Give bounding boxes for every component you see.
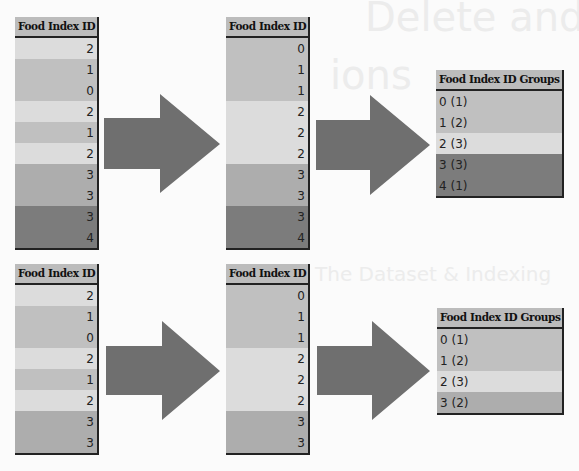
table-row: 4 [15, 227, 97, 248]
table-row: 2 [15, 38, 97, 59]
arrow-right-icon [104, 94, 222, 194]
table-row: 2 (3) [437, 371, 562, 392]
table-unsorted-bottom: Food Index ID 21021233 [15, 264, 99, 455]
table-groups-top: Food Index ID Groups 0 (1)1 (2)2 (3)3 (3… [436, 70, 564, 198]
table-row: 2 [15, 390, 97, 411]
arrow-right-icon [106, 321, 224, 421]
table-row: 3 [15, 185, 97, 206]
arrow-right-icon [316, 95, 434, 195]
table-row: 2 [226, 369, 308, 390]
background-heading: Delete and Update [365, 0, 579, 40]
table-header: Food Index ID Groups [436, 70, 562, 91]
table-row: 3 [15, 206, 97, 227]
table-row: 2 [226, 348, 308, 369]
table-row: 0 (1) [436, 91, 562, 112]
table-row: 3 (3) [436, 154, 562, 175]
table-groups-bottom: Food Index ID Groups 0 (1)1 (2)2 (3)3 (2… [437, 308, 564, 415]
table-header: Food Index ID [226, 17, 308, 38]
table-row: 0 [226, 38, 308, 59]
table-row: 1 [15, 369, 97, 390]
table-row: 2 [226, 122, 308, 143]
table-row: 1 [15, 122, 97, 143]
table-row: 1 [15, 306, 97, 327]
table-row: 3 [226, 206, 308, 227]
table-sorted-bottom: Food Index ID 01122233 [226, 264, 310, 455]
table-header: Food Index ID [15, 17, 97, 38]
table-row: 2 (3) [436, 133, 562, 154]
table-row: 2 [15, 101, 97, 122]
table-row: 3 [15, 164, 97, 185]
table-row: 2 [226, 143, 308, 164]
table-row: 0 [15, 327, 97, 348]
table-row: 0 (1) [437, 329, 562, 350]
table-row: 1 [226, 306, 308, 327]
table-row: 1 (2) [436, 112, 562, 133]
table-header: Food Index ID Groups [437, 308, 562, 329]
table-row: 1 [15, 59, 97, 80]
table-row: 2 [15, 285, 97, 306]
table-row: 3 [226, 185, 308, 206]
table-row: 2 [226, 101, 308, 122]
table-row: 3 (2) [437, 392, 562, 413]
table-row: 3 [226, 411, 308, 432]
background-subheading: The Dataset & Indexing [315, 262, 551, 286]
table-row: 4 [226, 227, 308, 248]
background-heading-continued: ions [330, 52, 412, 98]
table-row: 1 [226, 327, 308, 348]
table-row: 2 [226, 390, 308, 411]
table-sorted-top: Food Index ID 0112223334 [226, 17, 310, 250]
table-row: 1 (2) [437, 350, 562, 371]
table-row: 3 [226, 164, 308, 185]
table-row: 0 [226, 285, 308, 306]
table-row: 1 [226, 80, 308, 101]
table-row: 3 [226, 432, 308, 453]
table-header: Food Index ID [15, 264, 97, 285]
table-header: Food Index ID [226, 264, 308, 285]
table-row: 2 [15, 143, 97, 164]
table-row: 1 [226, 59, 308, 80]
table-row: 4 (1) [436, 175, 562, 196]
table-row: 0 [15, 80, 97, 101]
table-row: 3 [15, 411, 97, 432]
arrow-right-icon [317, 321, 435, 421]
table-row: 2 [15, 348, 97, 369]
table-row: 3 [15, 432, 97, 453]
table-unsorted-top: Food Index ID 2102123334 [15, 17, 99, 250]
